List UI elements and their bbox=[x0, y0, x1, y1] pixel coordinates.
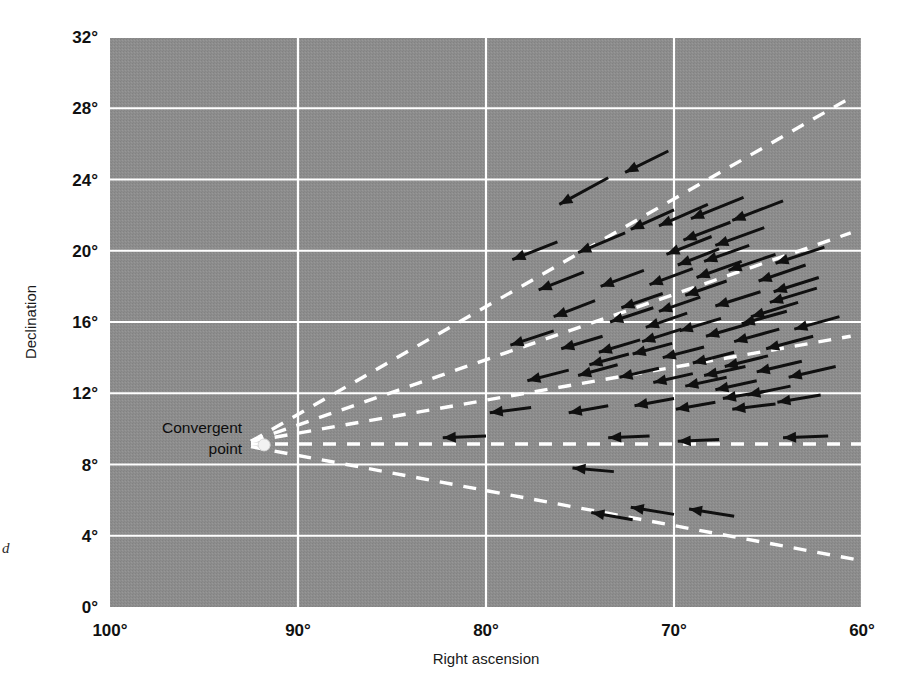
y-tick-label: 12° bbox=[72, 384, 98, 403]
convergent-point-figure: Convergent point 0°4°8°12°16°20°24°28°32… bbox=[0, 0, 910, 696]
convergent-point-label-line1: Convergent bbox=[162, 419, 243, 436]
x-tick-label: 60° bbox=[849, 621, 875, 640]
x-tick-label: 100° bbox=[92, 621, 127, 640]
convergent-point-label-line2: point bbox=[209, 440, 243, 457]
y-tick-label: 20° bbox=[72, 242, 98, 261]
y-tick-label: 24° bbox=[72, 171, 98, 190]
y-tick-label: 0° bbox=[82, 598, 98, 617]
y-tick-label: 28° bbox=[72, 99, 98, 118]
y-tick-label: 16° bbox=[72, 313, 98, 332]
convergent-point-marker bbox=[258, 439, 270, 451]
y-tick-label: 32° bbox=[72, 28, 98, 47]
figure-side-note: d bbox=[2, 540, 10, 557]
y-axis-title: Declination bbox=[22, 285, 39, 359]
y-tick-label: 4° bbox=[82, 527, 98, 546]
x-tick-label: 90° bbox=[285, 621, 311, 640]
y-tick-label: 8° bbox=[82, 456, 98, 475]
x-tick-label: 80° bbox=[473, 621, 499, 640]
chart-canvas: Convergent point 0°4°8°12°16°20°24°28°32… bbox=[0, 0, 910, 696]
x-axis-title: Right ascension bbox=[433, 650, 540, 667]
x-tick-label: 70° bbox=[661, 621, 687, 640]
